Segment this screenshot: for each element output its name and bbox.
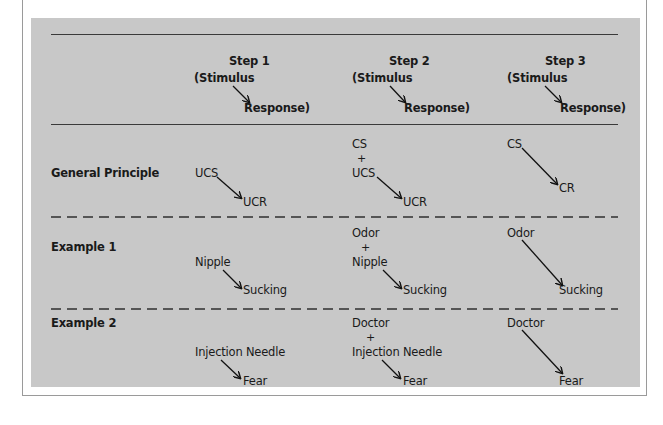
top-rule bbox=[51, 34, 618, 35]
row-3-step-1-stimulus: Injection Needle bbox=[195, 347, 285, 359]
header-rule bbox=[51, 124, 618, 125]
row-2-step-3-response: Sucking bbox=[559, 285, 603, 297]
row-1-step-2-stimulus-b: UCS bbox=[352, 168, 375, 180]
row-3-step-3-response: Fear bbox=[559, 376, 583, 388]
row-2-step-2-response: Sucking bbox=[403, 285, 447, 297]
row-1-step-2-stimulus-a: CS bbox=[352, 139, 367, 151]
row-1-step-1-response: UCR bbox=[243, 197, 267, 209]
row-3-step-2-plus: + bbox=[366, 332, 375, 343]
row-3-step-3-stimulus: Doctor bbox=[507, 318, 544, 330]
row-label-general-principle: General Principle bbox=[51, 168, 159, 180]
step-1-title: Step 1 bbox=[229, 56, 270, 68]
row-2-step-1-response: Sucking bbox=[243, 285, 287, 297]
row-1-step-1-stimulus: UCS bbox=[195, 168, 218, 180]
row-label-example-1: Example 1 bbox=[51, 242, 116, 254]
row-3-step-1-response: Fear bbox=[243, 376, 267, 388]
row-3-step-2-stimulus-b: Injection Needle bbox=[352, 347, 442, 359]
row-1-step-3-stimulus: CS bbox=[507, 139, 522, 151]
step-1-response-label: Response) bbox=[244, 103, 310, 115]
row-3-step-2-response: Fear bbox=[403, 376, 427, 388]
row-label-example-2: Example 2 bbox=[51, 318, 116, 330]
row-3-step-2-stimulus-a: Doctor bbox=[352, 318, 389, 330]
step-2-title: Step 2 bbox=[389, 56, 430, 68]
row-1-step-3-response: CR bbox=[559, 183, 575, 195]
step-3-stimulus-label: (Stimulus bbox=[507, 73, 567, 85]
row-2-step-3-stimulus: Odor bbox=[507, 228, 534, 240]
row-2-step-1-stimulus: Nipple bbox=[195, 257, 230, 269]
row-2-step-2-plus: + bbox=[361, 242, 370, 253]
step-2-stimulus-label: (Stimulus bbox=[352, 73, 412, 85]
step-2-response-label: Response) bbox=[404, 103, 470, 115]
row-1-step-2-response: UCR bbox=[403, 197, 427, 209]
row-divider-2 bbox=[51, 308, 618, 310]
step-3-title: Step 3 bbox=[545, 56, 586, 68]
row-divider-1 bbox=[51, 216, 618, 218]
row-1-step-2-plus: + bbox=[357, 153, 366, 164]
row-2-step-2-stimulus-a: Odor bbox=[352, 228, 379, 240]
step-3-response-label: Response) bbox=[560, 103, 626, 115]
step-1-stimulus-label: (Stimulus bbox=[194, 73, 254, 85]
row-2-step-2-stimulus-b: Nipple bbox=[352, 257, 387, 269]
